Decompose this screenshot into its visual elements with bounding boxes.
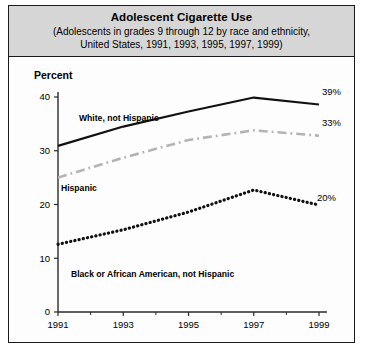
x-axis-tick-label: 1993 <box>113 319 134 330</box>
x-axis-tick-label: 1995 <box>178 319 199 330</box>
y-axis-tick-label: 30 <box>39 145 50 156</box>
series-end-label-2: 20% <box>317 192 337 203</box>
chart-page: Adolescent Cigarette Use (Adolescents in… <box>0 0 365 353</box>
x-axis-tick-label: 1999 <box>308 319 329 330</box>
series-label-0: White, not Hispanic <box>79 113 159 123</box>
series-end-label-0: 39% <box>322 86 342 97</box>
x-axis-tick-label: 1997 <box>243 319 264 330</box>
y-axis-tick-label: 40 <box>39 91 50 102</box>
series-label-2: Black or African American, not Hispanic <box>71 269 234 279</box>
y-axis-tick-label: 0 <box>45 306 50 317</box>
x-axis-tick-label: 1991 <box>47 319 68 330</box>
figure-frame: Adolescent Cigarette Use (Adolescents in… <box>8 5 355 343</box>
y-axis-tick-label: 10 <box>39 253 50 264</box>
series-end-label-1: 33% <box>322 117 342 128</box>
series-label-1: Hispanic <box>61 183 97 193</box>
y-axis-tick-label: 20 <box>39 199 50 210</box>
series-line-2 <box>58 190 319 244</box>
plot-area: 01020304019911993199519971999White, not … <box>9 6 356 344</box>
chart-svg: 01020304019911993199519971999White, not … <box>9 6 356 344</box>
series-line-1 <box>58 130 319 177</box>
